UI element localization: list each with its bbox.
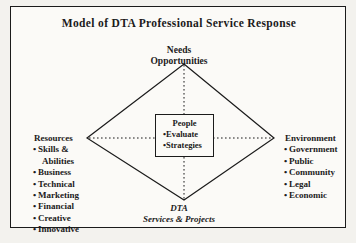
left-node-group: Resources •Skills & Abilities •Business … (33, 133, 79, 236)
list-item: •Public (284, 156, 338, 167)
center-node-item-label: Strategies (166, 140, 202, 150)
list-item-label: Legal (289, 179, 311, 189)
diagram-screenshot: Model of DTA Professional Service Respon… (0, 0, 356, 243)
list-item-label: Marketing (38, 190, 79, 200)
right-node-heading: Environment (284, 133, 338, 144)
list-item: •Community (284, 167, 338, 178)
center-node-heading: People (156, 118, 213, 129)
list-item-label: Business (38, 167, 71, 177)
list-item-label: Government (289, 144, 338, 154)
list-item: •Financial (33, 201, 79, 212)
list-item-label: Economic (289, 190, 327, 200)
list-item-label: Skills & (38, 144, 69, 154)
center-node-item-label: Evaluate (166, 129, 198, 139)
list-item: •Technical (33, 179, 79, 190)
list-item: •Skills & (33, 144, 79, 155)
list-item-label: Community (289, 167, 335, 177)
list-item-continuation: Abilities (33, 156, 79, 167)
left-node-heading: Resources (33, 133, 79, 144)
list-item: •Creative (33, 213, 79, 224)
list-item: •Economic (284, 190, 338, 201)
diagram-frame: Model of DTA Professional Service Respon… (10, 6, 346, 228)
list-item: •Innovative (33, 224, 79, 235)
list-item: •Legal (284, 179, 338, 190)
list-item-label: Financial (38, 201, 74, 211)
list-item-label: Technical (38, 179, 75, 189)
list-item-label: Innovative (38, 224, 79, 234)
center-node-item: •Strategies (156, 140, 213, 151)
list-item: •Business (33, 167, 79, 178)
list-item-label: Public (289, 156, 314, 166)
center-node-box: People •Evaluate •Strategies (155, 114, 214, 157)
list-item: •Marketing (33, 190, 79, 201)
right-node-group: Environment •Government •Public •Communi… (284, 133, 338, 201)
list-item: •Government (284, 144, 338, 155)
center-node-item: •Evaluate (156, 129, 213, 140)
list-item-label: Creative (38, 213, 71, 223)
